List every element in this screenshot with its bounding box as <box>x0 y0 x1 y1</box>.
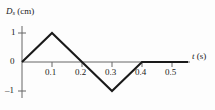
y-tick-label-1: 1 <box>11 28 16 37</box>
x-tick-label-01: 0.1 <box>45 68 56 77</box>
y-tick-label-0: 0 <box>10 57 15 66</box>
y-axis-units: (cm) <box>15 6 34 16</box>
wave-figure: Ds (cm) 1 0 –1 0.1 0.2 0.3 0.4 0.5 t (s) <box>0 0 215 110</box>
y-tick-label-neg1: –1 <box>5 86 14 95</box>
x-axis-title: t (s) <box>192 52 206 61</box>
x-tick-label-04: 0.4 <box>135 68 146 77</box>
x-axis-units: (s) <box>195 51 207 61</box>
x-tick-label-02: 0.2 <box>75 68 86 77</box>
x-tick-label-05: 0.5 <box>165 68 176 77</box>
x-tick-label-03: 0.3 <box>105 68 116 77</box>
y-axis-title: Ds (cm) <box>6 7 34 17</box>
